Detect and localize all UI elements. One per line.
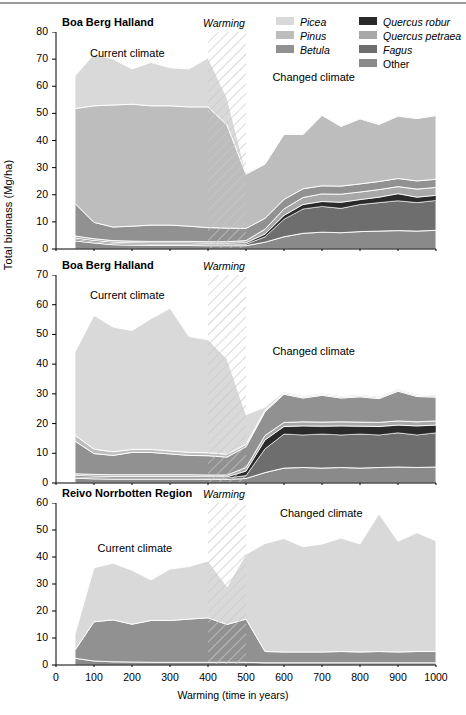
changed-climate-label: Changed climate [280, 507, 363, 519]
x-tick-label: 300 [150, 671, 190, 683]
x-tick-label: 700 [302, 671, 342, 683]
changed-climate-label: Changed climate [272, 345, 355, 357]
plot-area-0 [0, 32, 466, 251]
warming-label: Warming [203, 260, 245, 272]
panel-title-0: Boa Berg Halland [62, 16, 154, 28]
changed-climate-label: Changed climate [272, 71, 355, 83]
warming-band [208, 503, 246, 665]
current-climate-label: Current climate [98, 542, 173, 554]
current-climate-label: Current climate [90, 289, 165, 301]
legend-swatch-picea [276, 17, 294, 25]
plot-area-2 [0, 503, 466, 667]
x-tick-label: 900 [378, 671, 418, 683]
panel-title-2: Reivo Norrbotten Region [62, 487, 192, 499]
x-tick-label: 200 [112, 671, 152, 683]
warming-band [208, 275, 246, 483]
panel-title-1: Boa Berg Halland [62, 259, 154, 271]
warming-band [208, 32, 246, 249]
x-axis-title: Warming (time in years) [0, 689, 466, 701]
x-tick-label: 400 [188, 671, 228, 683]
warming-label: Warming [203, 17, 245, 29]
x-tick-label: 0 [36, 671, 76, 683]
legend-label-picea: Picea [300, 16, 326, 28]
x-tick-label: 600 [264, 671, 304, 683]
header-rule [0, 2, 466, 4]
current-climate-label: Current climate [90, 47, 165, 59]
x-tick-label: 800 [340, 671, 380, 683]
legend-swatch-quercus-robur [359, 17, 377, 25]
legend-label-quercus-robur: Quercus robur [383, 16, 450, 28]
warming-label: Warming [203, 488, 245, 500]
plot-area-1 [0, 275, 466, 485]
x-tick-label: 1000 [416, 671, 456, 683]
x-tick-label: 100 [74, 671, 114, 683]
x-tick-label: 500 [226, 671, 266, 683]
